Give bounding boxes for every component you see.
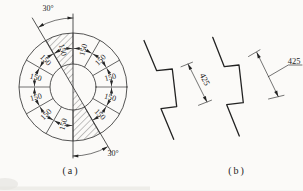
scan-edge-mark	[0, 187, 150, 191]
segment-dimension-label: 150	[29, 91, 43, 103]
angle-dimension-bottom: 30°	[73, 147, 119, 158]
segment-dimension-label: 150	[77, 43, 89, 57]
technical-drawing-page: 150 150 150 150 150 150 150 150 150 150 …	[0, 0, 303, 190]
segment-dimension-label: 150	[29, 71, 43, 83]
segment-dimension-label: 150	[103, 71, 117, 83]
lap-dimension-right: 425	[249, 50, 303, 99]
lap-length-label-left: 425	[198, 71, 213, 87]
lap-dimension-left: 425	[181, 62, 212, 105]
zigzag-joint-right	[213, 37, 244, 136]
caption-figure-b: (b)	[228, 165, 246, 177]
angle-dimension-top: 30°	[39, 4, 74, 27]
angle-label-bottom: 30°	[107, 149, 118, 158]
segment-dimension-label: 150	[57, 117, 69, 131]
segment-dimension-label: 150	[103, 91, 117, 103]
zigzag-joint-left	[144, 41, 177, 140]
angle-label-top: 30°	[42, 4, 53, 13]
caption-figure-a: (a)	[62, 165, 79, 177]
lap-length-label-right: 425	[288, 56, 301, 66]
figure-b: 425 425 (b)	[144, 37, 302, 177]
drawing-canvas: 150 150 150 150 150 150 150 150 150 150 …	[0, 0, 303, 190]
figure-a: 150 150 150 150 150 150 150 150 150 150 …	[19, 4, 127, 177]
leader-line	[268, 65, 302, 77]
